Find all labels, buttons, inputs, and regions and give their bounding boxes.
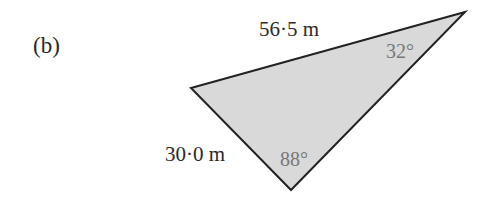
side-label-top: 56·5 m xyxy=(259,19,319,40)
angle-label-right: 32° xyxy=(386,41,414,61)
triangle xyxy=(191,12,465,190)
angle-label-bottom: 88° xyxy=(280,149,308,169)
side-label-left: 30·0 m xyxy=(165,144,225,165)
triangle-diagram xyxy=(0,0,502,201)
